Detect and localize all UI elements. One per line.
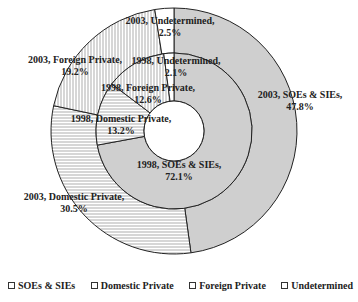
legend-swatch-icon bbox=[8, 282, 15, 289]
legend: SOEs & SIEs Domestic Private Foreign Pri… bbox=[8, 276, 353, 294]
legend-swatch-icon bbox=[281, 282, 288, 289]
legend-item-foreign-private: Foreign Private bbox=[189, 280, 266, 291]
legend-item-undetermined: Undetermined bbox=[281, 280, 353, 291]
legend-label: Undetermined bbox=[291, 280, 353, 291]
legend-item-soes: SOEs & SIEs bbox=[8, 280, 75, 291]
legend-item-domestic-private: Domestic Private bbox=[91, 280, 174, 291]
legend-swatch-icon bbox=[91, 282, 98, 289]
legend-label: Domestic Private bbox=[101, 280, 174, 291]
nested-donut-chart: 2003, SOEs & SIEs,47.8%2003, Domestic Pr… bbox=[0, 0, 358, 270]
donut-hole bbox=[144, 101, 204, 161]
legend-swatch-icon bbox=[189, 282, 196, 289]
legend-label: Foreign Private bbox=[199, 280, 266, 291]
legend-label: SOEs & SIEs bbox=[18, 280, 75, 291]
